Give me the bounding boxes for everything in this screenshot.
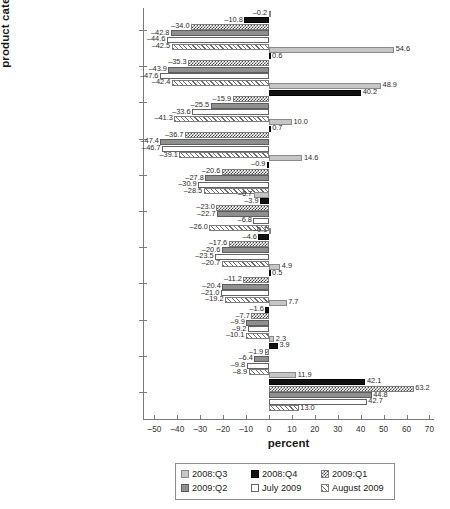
- x-axis-tick: [429, 415, 430, 420]
- bar: [269, 300, 287, 306]
- bar-value-label: –0.2: [253, 10, 267, 16]
- bar-value-label: 0.7: [272, 125, 282, 131]
- y-axis-tick: [139, 66, 147, 67]
- legend-swatch-icon: [251, 484, 259, 492]
- legend-item[interactable]: 2008:Q4: [251, 469, 319, 479]
- bar-value-label: –35.3: [168, 59, 187, 65]
- bar: [269, 399, 367, 405]
- bar-value-label: 42.1: [367, 378, 381, 384]
- x-axis-tick: [315, 415, 316, 420]
- bar: [269, 386, 414, 392]
- bar: [260, 198, 269, 204]
- x-axis-tick: [269, 415, 270, 420]
- bar-value-label: –3.9: [244, 198, 258, 204]
- bar: [269, 372, 296, 378]
- bar-value-label: –28.5: [184, 188, 203, 194]
- bar: [188, 60, 269, 66]
- bar: [168, 67, 269, 73]
- bar-value-label: –36.7: [165, 132, 184, 138]
- bar-value-label: –42.5: [152, 43, 171, 49]
- legend-swatch-icon: [321, 470, 329, 478]
- bar-value-label: –20.6: [202, 168, 221, 174]
- bar: [198, 182, 269, 188]
- bar: [265, 349, 269, 355]
- legend-swatch-icon: [321, 484, 329, 492]
- legend-item[interactable]: August 2009: [321, 483, 389, 493]
- bar-value-label: –22.7: [197, 211, 216, 217]
- x-axis-tick-label: 10: [287, 425, 296, 434]
- bar: [171, 30, 269, 36]
- bar: [251, 313, 269, 319]
- y-axis-title: product category: [0, 0, 11, 120]
- bar: [269, 155, 302, 161]
- x-axis-tick: [338, 415, 339, 420]
- legend-item[interactable]: 2008:Q3: [181, 469, 249, 479]
- bar: [269, 392, 372, 398]
- bar-value-label: –42.4: [152, 79, 171, 85]
- x-axis-tick: [407, 415, 408, 420]
- legend-item[interactable]: 2009:Q1: [321, 469, 389, 479]
- x-axis-tick-label: 0: [267, 425, 272, 434]
- x-axis-title: percent: [143, 437, 434, 449]
- legend-item[interactable]: July 2009: [251, 483, 319, 493]
- bar: [211, 103, 269, 109]
- bar: [167, 37, 269, 43]
- bar-value-label: –39.1: [159, 152, 178, 158]
- bar-value-label: –33.6: [172, 109, 191, 115]
- bar: [172, 44, 269, 50]
- bar-value-label: –10.1: [226, 332, 245, 338]
- bar-value-label: –1.6: [249, 306, 263, 312]
- bar: [246, 320, 269, 326]
- bar: [222, 247, 269, 253]
- x-axis-tick-label: –20: [216, 425, 230, 434]
- bar: [246, 333, 269, 339]
- bar: [267, 162, 269, 168]
- bar-value-label: –41.3: [154, 115, 173, 121]
- bar-value-label: –15.9: [213, 96, 232, 102]
- x-axis-tick-label: 40: [356, 425, 365, 434]
- x-axis-tick-label: –10: [239, 425, 253, 434]
- x-axis-tick-label: –40: [171, 425, 185, 434]
- bar: [185, 132, 269, 138]
- bar: [269, 343, 278, 349]
- bar-value-label: –0.9: [251, 161, 265, 167]
- bar: [269, 379, 365, 385]
- bar-chart: product category –50–40–30–20–1001020304…: [0, 0, 450, 509]
- bar: [222, 261, 269, 267]
- bar-value-label: 13.0: [300, 405, 314, 411]
- bar-value-label: 0.5: [272, 270, 282, 276]
- x-axis-tick-label: 50: [379, 425, 388, 434]
- bar-value-label: –8.9: [233, 369, 247, 375]
- bar-value-label: –6.8: [238, 217, 252, 223]
- bar-value-label: 10.0: [293, 119, 307, 125]
- y-axis-tick: [139, 175, 147, 176]
- bar: [174, 116, 269, 122]
- bar-value-label: 3.9: [279, 342, 289, 348]
- x-axis-tick-label: 30: [333, 425, 342, 434]
- x-axis-tick: [361, 415, 362, 420]
- bar-value-label: 54.6: [396, 46, 410, 52]
- bar-value-label: 63.2: [415, 385, 429, 391]
- x-axis-tick: [384, 415, 385, 420]
- bar: [269, 53, 271, 59]
- bar-value-label: –26.0: [189, 224, 208, 230]
- bar: [269, 228, 271, 234]
- bar-value-label: –4.6: [243, 234, 257, 240]
- legend-swatch-icon: [181, 484, 189, 492]
- x-axis-tick: [223, 415, 224, 420]
- legend-swatch-icon: [181, 470, 189, 478]
- bar-value-label: –19.2: [205, 296, 224, 302]
- bar: [221, 290, 269, 296]
- y-axis-tick: [139, 211, 147, 212]
- bar: [269, 126, 271, 132]
- legend-item[interactable]: 2009:Q2: [181, 483, 249, 493]
- x-axis-tick: [154, 415, 155, 420]
- y-axis-tick: [139, 247, 147, 248]
- bar-value-label: –10.8: [224, 17, 243, 23]
- legend-label: July 2009: [262, 483, 301, 493]
- bar: [243, 277, 269, 283]
- bar: [191, 24, 269, 30]
- x-axis-tick: [246, 415, 247, 420]
- bar-value-label: –20.7: [202, 260, 221, 266]
- bar: [233, 96, 269, 102]
